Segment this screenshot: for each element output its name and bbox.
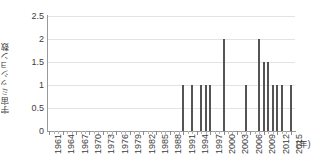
bar-1995	[200, 85, 202, 131]
x-tick-label-1979: 1979	[133, 134, 143, 154]
x-tick-label-1994: 1994	[200, 134, 210, 154]
x-tick-label-1964: 1964	[66, 134, 76, 154]
x-tick-label-1982: 1982	[147, 134, 157, 154]
x-tick-label-1961: 1961	[53, 134, 63, 154]
x-tick-label-1985: 1985	[160, 134, 170, 154]
bar-2011	[272, 85, 274, 131]
bar-2005	[245, 85, 247, 131]
x-tick-label-1970: 1970	[93, 134, 103, 154]
x-tick-label-1976: 1976	[120, 134, 130, 154]
bar-2009	[263, 62, 265, 131]
bar-2013	[281, 85, 283, 131]
bar-1993	[191, 85, 193, 131]
x-tick-label-1973: 1973	[106, 134, 116, 154]
x-tick-label-2003: 2003	[240, 134, 250, 154]
x-tick-label-1967: 1967	[80, 134, 90, 154]
x-axis-unit-label: (年)	[296, 137, 311, 149]
x-axis-tick-labels: 1961196419671970197319761979198219851988…	[0, 134, 321, 168]
y-tick-label: 2	[4, 34, 44, 44]
gridline-2.5	[47, 16, 295, 17]
y-tick-label: 2.5	[4, 11, 44, 21]
y-tick-label: 1	[4, 80, 44, 90]
x-tick-label-2000: 2000	[227, 134, 237, 154]
bar-2010	[267, 62, 269, 131]
bar-2015	[290, 85, 292, 131]
space-mission-bar-chart: 宇宙ミッション数 00.511.522.5 196119641967197019…	[0, 0, 321, 168]
x-tick-label-1997: 1997	[214, 134, 224, 154]
y-axis-line	[47, 15, 48, 132]
x-tick-label-1991: 1991	[187, 134, 197, 154]
y-tick-label: 0.5	[4, 103, 44, 113]
x-tick-label-2006: 2006	[254, 134, 264, 154]
bar-1991	[182, 85, 184, 131]
plot-area	[47, 16, 295, 131]
y-tick-label: 1.5	[4, 57, 44, 67]
x-tick-label-2009: 2009	[267, 134, 277, 154]
bar-1997	[209, 85, 211, 131]
bar-2012	[276, 85, 278, 131]
bar-1996	[205, 85, 207, 131]
bar-2000	[223, 39, 225, 131]
x-tick-label-1988: 1988	[173, 134, 183, 154]
bar-2008	[258, 39, 260, 131]
x-tick-label-2012: 2012	[281, 134, 291, 154]
